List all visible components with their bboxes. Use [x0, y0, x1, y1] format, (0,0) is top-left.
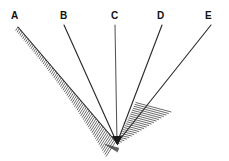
hatch-mark: [101, 135, 110, 149]
hatch-mark: [72, 96, 77, 103]
hatch-mark: [29, 43, 31, 47]
hatch-mark: [34, 48, 37, 52]
hatch-mark: [71, 94, 76, 101]
hatch-mark: [80, 105, 85, 114]
hatch-mark: [69, 92, 73, 99]
hatch-mark: [131, 112, 159, 119]
ray-diagram-canvas: [0, 0, 229, 161]
hatch-mark: [25, 38, 27, 42]
hatch-mark: [132, 110, 161, 118]
hatch-mark: [36, 52, 39, 56]
hatch-mark: [102, 137, 111, 151]
hatch-mark: [81, 107, 87, 116]
hatch-mark: [43, 60, 46, 64]
hatch-mark: [35, 50, 38, 54]
hatch-mark: [24, 37, 26, 41]
hatch-mark: [31, 45, 33, 49]
hatch-mark: [17, 29, 19, 33]
ray-line-a: [18, 27, 117, 143]
hatch-mark: [21, 34, 23, 38]
hatch-mark: [38, 53, 41, 57]
hatch-mark: [76, 101, 81, 109]
hatch-mark: [16, 27, 18, 31]
hatch-mark: [77, 102, 82, 110]
hatch-mark: [28, 42, 30, 46]
hatch-mark: [32, 47, 35, 51]
ray-line-e: [117, 25, 211, 143]
hatch-mark: [73, 97, 78, 104]
hatch-mark: [20, 32, 22, 36]
ray-line-b: [64, 25, 117, 143]
ray-label-c: C: [111, 11, 118, 21]
hatch-mark: [40, 56, 43, 60]
hatch-mark: [99, 132, 107, 145]
hatch-mark: [18, 30, 20, 34]
hatch-mark: [78, 104, 83, 112]
hatch-mark: [27, 40, 29, 44]
hatch-mark: [74, 99, 79, 107]
hatch-mark: [100, 133, 109, 146]
hatch-mark: [133, 108, 164, 116]
hatch-mark: [23, 35, 25, 39]
hatch-mark: [44, 61, 47, 65]
ray-label-e: E: [205, 11, 212, 21]
ray-lines-group: [18, 25, 211, 143]
ray-diagram-figure: A B C D E: [0, 0, 229, 161]
hatch-mark: [67, 89, 71, 96]
hatch-mark: [68, 91, 72, 98]
hatch-mark: [39, 55, 42, 59]
ray-line-c: [115, 25, 117, 143]
ray-label-b: B: [60, 11, 67, 21]
ray-label-a: A: [11, 11, 18, 21]
hatch-mark: [42, 58, 45, 62]
ray-label-d: D: [157, 11, 164, 21]
